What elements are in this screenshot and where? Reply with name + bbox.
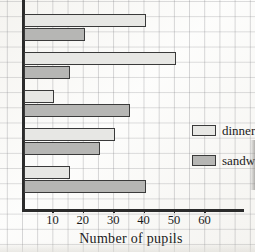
bar-m-sandwiches: [24, 28, 85, 41]
legend-label-dinners: dinners: [222, 124, 255, 137]
legend-swatch-dinners: [192, 125, 216, 136]
bar-th-sandwiches: [24, 142, 100, 155]
bar-f-dinners: [24, 166, 70, 179]
x-tick-label-50: 50: [161, 214, 187, 227]
x-tick-label-30: 30: [100, 214, 126, 227]
bar-w-sandwiches: [24, 104, 130, 117]
legend-entry-dinners: dinners: [192, 124, 255, 137]
legend-label-sandwiches: sandwich: [222, 154, 255, 167]
legend-swatch-sandwiches: [192, 155, 216, 166]
bar-f-sandwiches: [24, 180, 146, 193]
bar-chart-figure: MTWThF 102030405060 Number of pupils din…: [0, 0, 255, 252]
bar-m-dinners: [24, 14, 146, 27]
x-tick-label-20: 20: [70, 214, 96, 227]
x-tick-label-40: 40: [131, 214, 157, 227]
bar-w-dinners: [24, 90, 54, 103]
bar-t-sandwiches: [24, 66, 70, 79]
bar-t-dinners: [24, 52, 176, 65]
bar-th-dinners: [24, 128, 115, 141]
legend-entry-sandwiches: sandwich: [192, 154, 255, 167]
x-axis-title: Number of pupils: [22, 231, 240, 247]
x-tick-label-10: 10: [39, 214, 65, 227]
x-axis-line: [22, 209, 244, 212]
x-tick-label-60: 60: [191, 214, 217, 227]
plot-area: MTWThF 102030405060: [22, 0, 240, 211]
